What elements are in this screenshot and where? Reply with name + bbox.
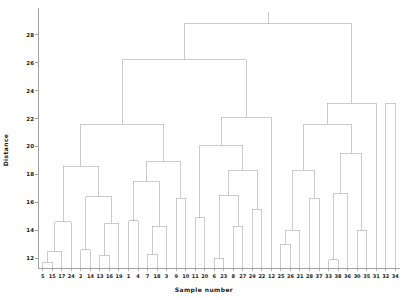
y-tick-label: 20 (16, 143, 34, 149)
dendrogram-figure: Distance Sample number 12141618202224262… (0, 0, 408, 301)
x-tick-label: 35 (363, 273, 370, 279)
x-tick-label: 38 (335, 273, 342, 279)
y-axis-title: Distance (2, 134, 9, 167)
x-tick-label: 36 (344, 273, 351, 279)
x-tick-label: 21 (296, 273, 303, 279)
x-tick-label: 23 (220, 273, 227, 279)
x-tick-label: 14 (87, 273, 94, 279)
x-tick-label: 22 (258, 273, 265, 279)
y-tick-label: 14 (16, 227, 34, 233)
x-tick-label: 2 (79, 273, 82, 279)
x-tick-label: 15 (49, 273, 56, 279)
y-tick-label: 28 (16, 32, 34, 38)
x-tick-label: 19 (115, 273, 122, 279)
x-tick-label: 31 (373, 273, 380, 279)
x-tick-label: 28 (306, 273, 313, 279)
x-tick-label: 11 (192, 273, 199, 279)
x-tick-label: 29 (249, 273, 256, 279)
x-tick-label: 27 (239, 273, 246, 279)
x-tick-label: 8 (232, 273, 235, 279)
x-tick-label: 20 (201, 273, 208, 279)
x-tick-label: 26 (287, 273, 294, 279)
x-tick-label: 12 (268, 273, 275, 279)
x-tick-label: 5 (41, 273, 44, 279)
dendrogram-plot (0, 0, 408, 301)
y-tick-label: 12 (16, 255, 34, 261)
y-tick-label: 16 (16, 199, 34, 205)
x-tick-label: 32 (382, 273, 389, 279)
x-tick-label: 34 (392, 273, 399, 279)
x-tick-label: 10 (182, 273, 189, 279)
x-tick-label: 37 (316, 273, 323, 279)
x-tick-label: 13 (96, 273, 103, 279)
x-tick-label: 18 (154, 273, 161, 279)
x-tick-label: 25 (277, 273, 284, 279)
x-tick-label: 17 (58, 273, 65, 279)
y-tick-label: 26 (16, 60, 34, 66)
x-tick-label: 1 (127, 273, 130, 279)
y-tick-label: 18 (16, 171, 34, 177)
x-tick-label: 4 (136, 273, 139, 279)
y-tick-label: 22 (16, 116, 34, 122)
y-tick-label: 24 (16, 88, 34, 94)
x-tick-label: 3 (165, 273, 168, 279)
x-tick-label: 33 (325, 273, 332, 279)
x-tick-label: 6 (212, 273, 215, 279)
x-tick-label: 9 (174, 273, 177, 279)
x-axis-title: Sample number (175, 286, 233, 293)
x-tick-label: 16 (106, 273, 113, 279)
x-tick-label: 24 (68, 273, 75, 279)
x-tick-label: 30 (354, 273, 361, 279)
x-tick-label: 7 (146, 273, 149, 279)
